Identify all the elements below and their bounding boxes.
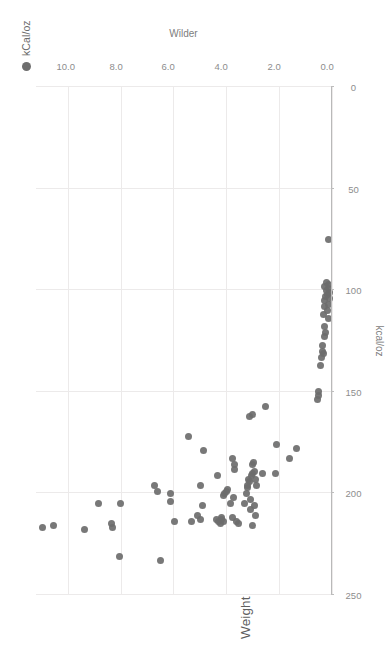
y-tick-label: 0.0 [321,61,343,72]
gridline-vertical [36,492,332,493]
x-axis-tick [331,391,334,392]
scatter-point [157,557,164,564]
y-tick-label: 10.0 [56,61,78,72]
gridline-horizontal [68,87,69,595]
legend-label: kCal/oz [20,20,32,56]
chart-legend: kCal/oz [20,20,32,71]
scatter-point [253,482,260,489]
scatter-point [324,307,331,314]
scatter-point [116,553,123,560]
scatter-point [200,447,207,454]
x-tick-label: 100 [342,285,366,296]
scatter-point [224,486,231,493]
y-tick-label: 8.0 [109,61,131,72]
scatter-point [197,482,204,489]
scatter-point [319,342,326,349]
chart-figure: kCal/oz Weight Efficiency (kCal/oz) vs. … [0,0,392,667]
gridline-vertical [36,86,332,87]
gridline-vertical [36,594,332,595]
scatter-point [249,411,256,418]
scatter-point [227,500,234,507]
y-axis-title: Wilder [164,28,204,39]
gridline-vertical [36,188,332,189]
scatter-point [231,466,238,473]
legend-marker-icon [22,62,31,71]
gridline-horizontal [121,87,122,595]
x-axis-title: kcal/oz [374,317,385,365]
x-tick-label: 150 [342,386,366,397]
scatter-point [293,445,300,452]
scatter-point [259,470,266,477]
gridline-vertical [36,391,332,392]
plot-background [36,87,332,595]
x-tick-label: 200 [342,488,366,499]
gridline-horizontal [279,87,280,595]
scatter-point [251,468,258,475]
x-axis-tick [331,86,334,87]
y-tick-label: 2.0 [268,61,290,72]
scatter-point [154,488,161,495]
scatter-point [251,502,258,509]
y-tick-label: 4.0 [215,61,237,72]
x-tick-label: 50 [342,183,366,194]
scatter-point [320,350,327,357]
x-axis-tick [331,188,334,189]
y-tick-label: 6.0 [162,61,184,72]
gridline-horizontal [332,87,333,595]
scatter-point [167,498,174,505]
x-tick-label: 250 [342,590,366,601]
plot-area [36,87,332,595]
x-axis-tick [331,492,334,493]
gridline-vertical [36,289,332,290]
scatter-point [214,472,221,479]
x-axis-line [331,87,332,595]
scatter-point [95,500,102,507]
scatter-point [262,403,269,410]
scatter-point [321,283,328,290]
scatter-point [220,518,227,525]
x-tick-label: 0 [342,82,366,93]
x-axis-tick [331,289,334,290]
scatter-point [272,470,279,477]
x-axis-tick [331,594,334,595]
